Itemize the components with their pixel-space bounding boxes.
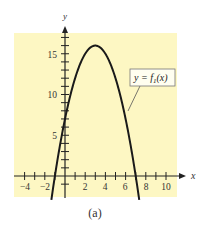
y-tick-label: 5 [52, 131, 57, 141]
x-tick-label: 10 [161, 182, 171, 192]
function-plot: x −4 −2 2 4 6 8 10 y 15 10 5 y = f1(x) [0, 0, 203, 238]
x-tick-label: −2 [40, 182, 50, 192]
x-tick-label: 2 [83, 182, 88, 192]
x-axis-label: x [190, 170, 196, 181]
y-axis-arrow-icon [62, 26, 68, 33]
x-tick-label: 4 [103, 182, 108, 192]
x-tick-label: 8 [144, 182, 149, 192]
y-tick-label: 15 [48, 50, 58, 60]
figure-caption: (a) [0, 206, 190, 221]
x-axis-arrow-icon [179, 173, 186, 179]
y-tick-label: 10 [48, 90, 58, 100]
y-axis-label: y [62, 11, 67, 21]
x-tick-label: 6 [123, 182, 128, 192]
x-tick-label: −4 [20, 182, 30, 192]
